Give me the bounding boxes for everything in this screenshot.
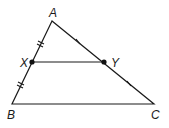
label-x: X	[19, 56, 29, 70]
tick-mark-yc	[127, 81, 131, 86]
label-a: A	[48, 6, 57, 20]
label-c: C	[151, 108, 160, 122]
label-y: Y	[111, 56, 120, 70]
triangle-diagram: A X Y B C	[0, 0, 169, 128]
label-b: B	[7, 108, 15, 122]
point-x-dot	[29, 59, 34, 64]
point-y-dot	[101, 59, 106, 64]
